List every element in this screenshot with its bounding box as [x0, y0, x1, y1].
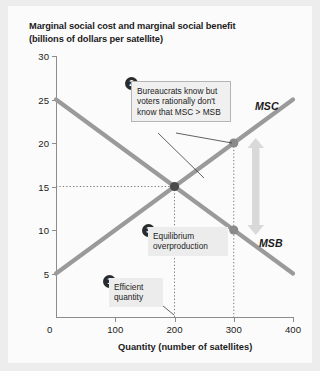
- connector-callout-2a: [176, 133, 232, 143]
- figure-panel: Marginal social cost and marginal social…: [8, 6, 312, 363]
- callout-efficient-quantity: Efficient quantity: [109, 278, 163, 307]
- callout-connectors: [8, 6, 312, 363]
- callout-bureaucrats-know: Bureaucrats know but voters rationally d…: [131, 81, 231, 122]
- callout-equilibrium-overproduction: Equilibrium overproduction: [148, 227, 228, 256]
- connector-callout-2b: [158, 133, 204, 178]
